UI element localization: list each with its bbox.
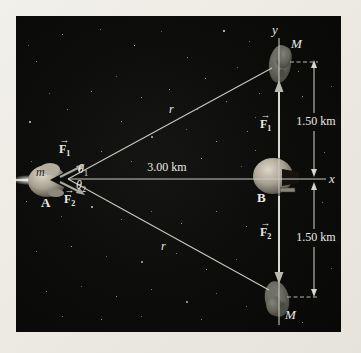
spaceship-a — [12, 163, 72, 197]
dimension-line-bottom — [311, 182, 317, 297]
asteroid-bottom — [262, 279, 292, 319]
r-line-bottom — [68, 179, 269, 290]
force-arrow-f1-b — [275, 80, 284, 158]
asteroid-top — [267, 44, 293, 84]
r-line-top — [68, 68, 272, 179]
force-arrow-f2-b — [275, 196, 284, 284]
diagram-overlay — [0, 0, 361, 353]
spaceship-b — [253, 158, 299, 194]
figure-page: y x M M A B m r r 3.00 km 1.50 km 1.50 k… — [0, 0, 361, 353]
dimension-line-top — [311, 60, 317, 177]
